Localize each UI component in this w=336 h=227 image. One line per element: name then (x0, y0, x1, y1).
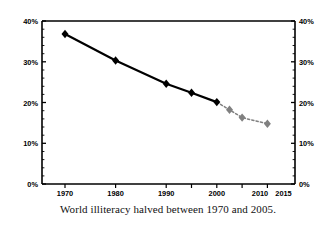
x-tick-1990: 1990 (158, 189, 174, 198)
x-tick-2015: 2015 (275, 189, 291, 198)
plot-background (42, 21, 295, 184)
y-right-tick-30: 30% (299, 58, 314, 67)
y-left-tick-30: 30% (23, 58, 38, 67)
y-left-tick-20: 20% (23, 99, 38, 108)
y-left-tick-0: 0% (27, 180, 38, 189)
x-axis-labels: 1970 1980 1990 2000 2010 2015 (57, 189, 292, 198)
illiteracy-line-chart: 40% 30% 20% 10% 0% 40% 30% 20% 10% 0% 19… (0, 0, 336, 227)
y-right-tick-40: 40% (299, 17, 314, 26)
y-right-tick-10: 10% (299, 139, 314, 148)
chart-caption: World illiteracy halved between 1970 and… (0, 203, 336, 215)
y-left-tick-10: 10% (23, 139, 38, 148)
y-axis-right-labels: 40% 30% 20% 10% 0% (299, 17, 314, 189)
y-axis-left-labels: 40% 30% 20% 10% 0% (23, 17, 38, 189)
x-tick-2010: 2010 (252, 189, 268, 198)
y-left-tick-40: 40% (23, 17, 38, 26)
x-tick-1970: 1970 (57, 189, 73, 198)
x-tick-1980: 1980 (107, 189, 123, 198)
y-right-tick-20: 20% (299, 99, 314, 108)
x-tick-2000: 2000 (209, 189, 225, 198)
illiteracy-chart-figure: 40% 30% 20% 10% 0% 40% 30% 20% 10% 0% 19… (0, 0, 336, 227)
y-right-tick-0: 0% (299, 180, 310, 189)
